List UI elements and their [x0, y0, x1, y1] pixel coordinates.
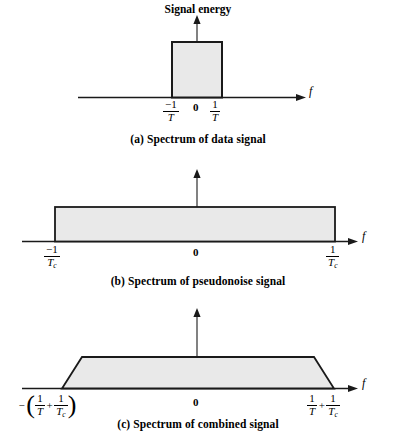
panel-a-tick-positive-one-over-T: 1 T: [210, 99, 220, 123]
panel-c-neg-term1-den: T: [35, 406, 45, 418]
panel-c-tick-negative-sum: −( 1 T + 1 Tc ): [17, 393, 76, 417]
panel-c-f-axis-label: f: [362, 376, 365, 391]
panel-c-pos-operator: +: [317, 400, 326, 411]
panel-b-tick-negative-one-over-Tc: −1 Tc: [44, 244, 60, 268]
panel-c-neg-term2-den-wrap: Tc: [54, 406, 67, 418]
spectrum-figure: Signal energy f −1 T 0 1 T (a) Spectrum …: [0, 0, 396, 440]
panel-a-tick-pos-num: 1: [210, 99, 220, 112]
panel-a-tick-neg-num: −1: [163, 99, 179, 112]
panel-c-neg-sign: −: [17, 400, 26, 411]
panel-b-tick-pos-den-wrap: Tc: [326, 257, 339, 269]
panel-c-spectrum-trapezoid: [62, 357, 334, 389]
panel-b-tick-neg-den-wrap: Tc: [44, 257, 60, 269]
panel-c-left-paren-open: (: [26, 396, 35, 415]
panel-a-origin-label: 0: [193, 101, 199, 113]
panel-a-spectrum-rect: [172, 42, 222, 98]
panel-a-tick-pos-den: T: [210, 112, 220, 124]
panel-c-caption: (c) Spectrum of combined signal: [0, 418, 396, 430]
panel-c-pos-term1-den: T: [307, 406, 317, 418]
panel-b-caption: (b) Spectrum of pseudonoise signal: [0, 275, 396, 287]
panel-a-f-axis-label: f: [309, 84, 312, 99]
panel-a-caption: (a) Spectrum of data signal: [0, 133, 396, 145]
panel-b-tick-neg-sub: c: [53, 261, 56, 270]
panel-c-origin-label: 0: [193, 396, 199, 408]
panel-b-spectrum-rect: [55, 207, 335, 242]
panel-c-left-paren-close: ): [68, 396, 77, 415]
panel-c-neg-operator: +: [45, 400, 54, 411]
panel-c-pos-term2-den-wrap: Tc: [326, 406, 339, 418]
panel-a-tick-negative-one-over-T: −1 T: [163, 99, 179, 123]
panel-c-tick-positive-sum: 1 T + 1 Tc: [307, 393, 340, 417]
panel-b-tick-pos-sub: c: [334, 261, 337, 270]
panel-b-f-axis-label: f: [362, 229, 365, 244]
panel-b-origin-label: 0: [193, 246, 199, 258]
panel-c-neg-term1-num: 1: [35, 393, 45, 406]
panel-a-tick-neg-den: T: [163, 112, 179, 124]
panel-c-pos-term1-num: 1: [307, 393, 317, 406]
panel-b-tick-positive-one-over-Tc: 1 Tc: [326, 244, 339, 268]
